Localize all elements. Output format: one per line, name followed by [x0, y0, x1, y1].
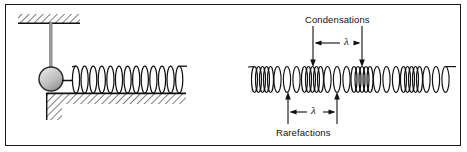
floor-hatch — [46, 94, 186, 120]
condensation-markers — [310, 26, 365, 67]
pendulum-rod — [49, 23, 52, 72]
uniform-spring — [72, 66, 187, 93]
longitudinal-wave-spring — [248, 26, 456, 124]
wavelength-label-top: λ — [344, 35, 349, 47]
figure-drawing — [0, 0, 467, 152]
figure-root: Condensations Rarefactions λ λ — [0, 0, 467, 152]
mass-body — [39, 67, 63, 91]
wave-spring-coils — [248, 67, 456, 93]
ceiling-support — [18, 14, 80, 23]
floor-support — [46, 93, 186, 120]
driver-assembly — [18, 14, 187, 120]
ceiling-hatch — [18, 14, 80, 23]
condensations-label: Condensations — [305, 14, 370, 25]
wavelength-label-bottom: λ — [311, 104, 316, 116]
rarefactions-label: Rarefactions — [276, 127, 331, 138]
oscillating-mass — [39, 67, 63, 91]
